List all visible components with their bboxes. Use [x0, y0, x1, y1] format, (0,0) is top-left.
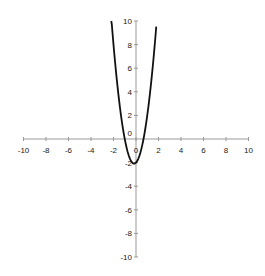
x-tick-label: -10 — [18, 146, 30, 155]
y-tick-label: 6 — [128, 64, 133, 73]
y-tick-label: 0 — [128, 129, 133, 138]
y-tick-label: -10 — [120, 253, 132, 262]
y-tick-label: -4 — [125, 182, 133, 191]
x-tick-label: -2 — [110, 146, 118, 155]
y-tick-label: -8 — [125, 229, 133, 238]
y-tick-label: -6 — [125, 206, 133, 215]
x-tick-label: 8 — [224, 146, 229, 155]
x-tick-label: 4 — [179, 146, 184, 155]
y-tick-label: 8 — [128, 41, 133, 50]
x-tick-label: 0 — [134, 146, 139, 155]
parabola-curve — [111, 21, 156, 164]
axes — [24, 21, 249, 257]
x-tick-label: 10 — [244, 146, 253, 155]
y-tick-label: 10 — [123, 17, 132, 26]
y-tick-label: 4 — [128, 88, 133, 97]
y-tick-label: 2 — [128, 111, 133, 120]
x-tick-label: -6 — [65, 146, 73, 155]
x-tick-label: 6 — [201, 146, 206, 155]
x-tick-label: -4 — [87, 146, 95, 155]
x-tick-label: 2 — [156, 146, 161, 155]
x-tick-label: -8 — [42, 146, 50, 155]
parabola-chart: -10-8-6-4-202468101086420-2-4-6-8-10 — [0, 0, 265, 276]
